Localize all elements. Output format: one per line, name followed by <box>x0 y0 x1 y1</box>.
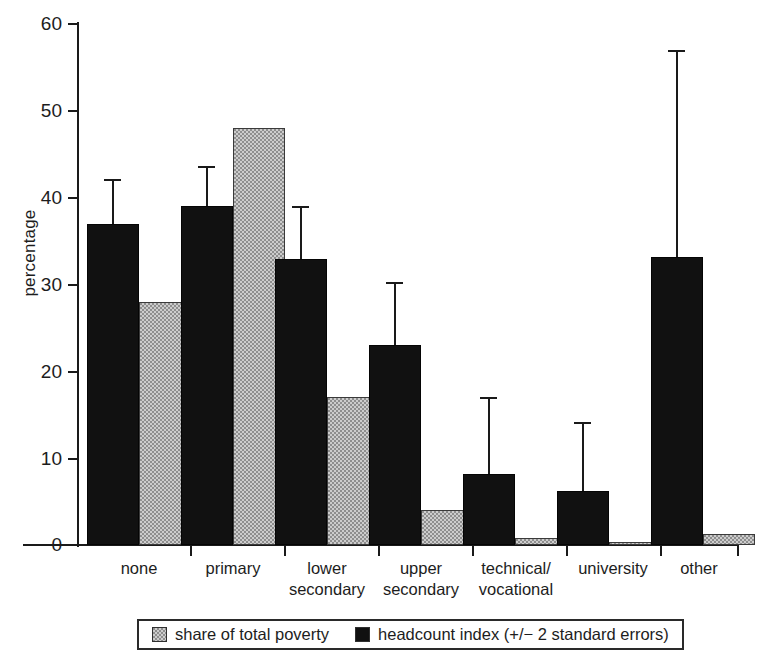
bar-headcount-technical-vocational <box>463 474 515 545</box>
bar-headcount-other <box>651 257 703 545</box>
legend-label-share-of-total-poverty: share of total poverty <box>175 625 329 644</box>
y-tick-label-60: 60 <box>18 14 62 33</box>
errorbar-line-technical-vocational <box>488 398 490 474</box>
bar-headcount-upper-secondary <box>369 345 421 545</box>
y-tick-label-40: 40 <box>18 188 62 207</box>
errorbar-cap-university <box>574 422 591 424</box>
bar-headcount-primary <box>181 206 233 545</box>
legend-swatch-black-icon <box>355 627 370 642</box>
x-category-label-lower-secondary: lower secondary <box>275 558 379 600</box>
x-tick-sep-3 <box>378 546 380 556</box>
legend-item-share-of-total-poverty[interactable]: share of total poverty <box>152 625 329 644</box>
x-tick-sep-1 <box>190 546 192 556</box>
x-tick-sep-5 <box>566 546 568 556</box>
x-category-label-primary-line1: primary <box>181 558 285 579</box>
errorbar-line-university <box>582 423 584 491</box>
x-category-label-technical-vocational-line2: vocational <box>461 579 571 600</box>
errorbar-cap-upper-secondary <box>386 282 403 284</box>
errorbar-line-other <box>676 51 678 257</box>
y-tick-mark-10 <box>68 458 77 460</box>
y-tick-mark-40 <box>68 197 77 199</box>
x-category-label-primary: primary <box>181 558 285 579</box>
chart-figure: percentage 60 50 40 30 20 10 0 <box>0 0 763 665</box>
errorbar-cap-technical-vocational <box>480 397 497 399</box>
x-category-label-upper-secondary-line1: upper <box>369 558 473 579</box>
legend-label-headcount-index: headcount index (+/− 2 standard errors) <box>378 625 669 644</box>
x-category-label-technical-vocational: technical/ vocational <box>461 558 571 600</box>
bar-headcount-lower-secondary <box>275 259 327 545</box>
x-category-label-university: university <box>557 558 669 579</box>
y-tick-label-20: 20 <box>18 362 62 381</box>
errorbar-line-none <box>112 180 114 224</box>
x-category-label-none: none <box>87 558 191 579</box>
x-category-label-other: other <box>661 558 737 579</box>
errorbar-cap-other <box>668 50 685 52</box>
x-tick-sep-6 <box>660 546 662 556</box>
plot-area <box>77 24 738 545</box>
x-tick-sep-7 <box>737 546 739 556</box>
legend-item-headcount-index[interactable]: headcount index (+/− 2 standard errors) <box>355 625 669 644</box>
errorbar-cap-lower-secondary <box>292 206 309 208</box>
x-category-label-other-line1: other <box>661 558 737 579</box>
bar-headcount-university <box>557 491 609 545</box>
chart-legend: share of total poverty headcount index (… <box>137 619 684 650</box>
x-category-label-upper-secondary: upper secondary <box>369 558 473 600</box>
x-category-label-none-line1: none <box>87 558 191 579</box>
y-tick-mark-60 <box>68 23 77 25</box>
y-tick-label-30: 30 <box>18 275 62 294</box>
x-tick-sep-4 <box>472 546 474 556</box>
errorbar-cap-primary <box>198 166 215 168</box>
legend-swatch-gray-icon <box>152 627 167 642</box>
y-axis-label: percentage <box>20 193 40 313</box>
y-tick-label-0: 0 <box>18 535 62 554</box>
y-tick-mark-50 <box>68 110 77 112</box>
errorbar-line-lower-secondary <box>300 207 302 259</box>
errorbar-line-upper-secondary <box>394 283 396 345</box>
y-tick-mark-30 <box>68 284 77 286</box>
bar-share-other <box>703 534 755 545</box>
y-tick-mark-0 <box>68 544 77 546</box>
y-tick-label-50: 50 <box>18 101 62 120</box>
y-tick-mark-20 <box>68 371 77 373</box>
x-category-label-lower-secondary-line1: lower <box>275 558 379 579</box>
errorbar-line-primary <box>206 167 208 206</box>
x-tick-sep-2 <box>284 546 286 556</box>
x-category-label-lower-secondary-line2: secondary <box>275 579 379 600</box>
x-category-label-upper-secondary-line2: secondary <box>369 579 473 600</box>
x-category-label-technical-vocational-line1: technical/ <box>461 558 571 579</box>
errorbar-cap-none <box>104 179 121 181</box>
x-category-label-university-line1: university <box>557 558 669 579</box>
bar-headcount-none <box>87 224 139 545</box>
y-tick-label-10: 10 <box>18 449 62 468</box>
